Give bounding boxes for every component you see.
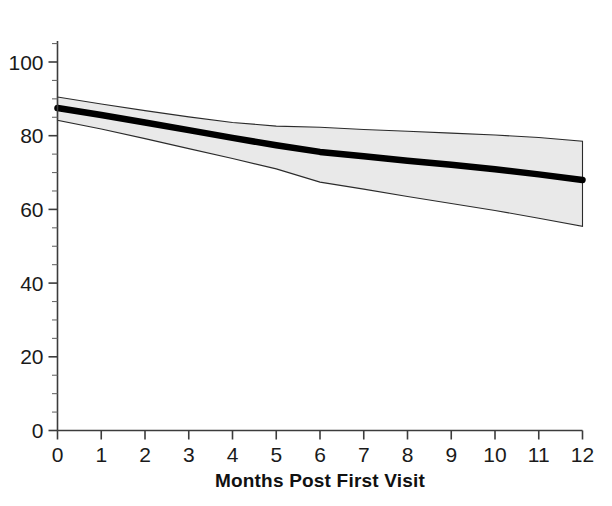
y-tick-label: 80 (20, 124, 43, 147)
x-tick-label: 3 (183, 443, 195, 466)
y-tick-label: 60 (20, 198, 43, 221)
y-tick-label: 0 (32, 419, 44, 442)
chart-figure: 020406080100 0123456789101112 Months Pos… (0, 0, 612, 506)
y-tick-label: 40 (20, 272, 43, 295)
x-tick-label: 0 (52, 443, 64, 466)
x-axis-title: Months Post First Visit (215, 470, 426, 491)
x-tick-label: 2 (139, 443, 151, 466)
x-tick-label: 5 (270, 443, 282, 466)
x-tick-label: 1 (95, 443, 107, 466)
x-tick-label: 6 (314, 443, 326, 466)
x-tick-label: 7 (358, 443, 370, 466)
x-tick-label: 12 (571, 443, 594, 466)
line-chart-with-confidence-band: 020406080100 0123456789101112 Months Pos… (0, 0, 612, 506)
x-tick-label: 10 (483, 443, 506, 466)
y-tick-label: 100 (8, 51, 43, 74)
x-tick-label: 9 (445, 443, 457, 466)
x-tick-label: 8 (402, 443, 414, 466)
x-tick-label: 11 (528, 443, 550, 466)
y-tick-label: 20 (20, 345, 43, 368)
x-tick-label: 4 (227, 443, 239, 466)
